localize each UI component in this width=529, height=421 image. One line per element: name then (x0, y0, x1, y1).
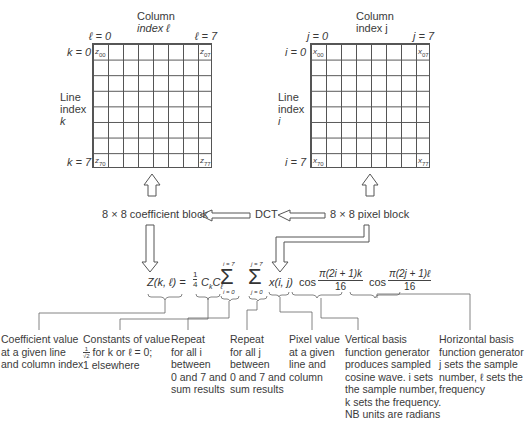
sigma-j: Σ (248, 266, 262, 288)
annotation-line: Horizontal basis (439, 333, 524, 346)
annotation-sum-j: Repeat for all j between 0 and 7 and sum… (230, 333, 285, 396)
annotation-line: sum results (171, 383, 226, 396)
pixel-block-label: 8 × 8 pixel block (330, 208, 409, 220)
leader-sum-j (247, 301, 257, 330)
sigma-i: Σ (220, 266, 234, 288)
formula-cos1: cos (299, 276, 316, 288)
sqrt2-fraction: 1 √2 (83, 346, 90, 359)
fraction-num: 1 (83, 346, 90, 353)
annotation-line: for all j (230, 346, 285, 359)
annotation-line: Vertical basis (345, 333, 441, 346)
annotation-line: Repeat (171, 333, 226, 346)
annotation-line: produces sampled (345, 358, 441, 371)
leader-cos1 (321, 298, 358, 330)
annotation-line: 1 √2 for k or ℓ = 0; (83, 346, 170, 360)
up-arrow-to-pixel-grid (362, 174, 378, 196)
leader-pixel (280, 297, 312, 330)
annotation-line: k sets the frequency. (345, 396, 441, 409)
annotation-constants: Constants of value 1 √2 for k or ℓ = 0; … (83, 333, 170, 372)
annotation-coefficient: Coefficient value at a given line and co… (1, 333, 83, 371)
annotation-line: NB units are radians (345, 408, 441, 421)
cos2-fraction: π(2j + 1)ℓ 16 (388, 268, 431, 293)
annotation-line: and column index (1, 358, 83, 371)
annotation-line: Constants of value (83, 333, 170, 346)
annotation-line: the sample number, (345, 383, 441, 396)
annotation-line: cosine wave. i sets (345, 371, 441, 384)
annotation-horizontal-basis: Horizontal basis function generator j se… (439, 333, 524, 396)
brace-sum-i (221, 296, 239, 301)
leader-constants (120, 300, 208, 330)
annotation-line: column (289, 371, 340, 384)
formula-cos2: cos (369, 276, 386, 288)
annotation-line: number, ℓ sets the (439, 371, 524, 384)
annotation-text: for k or ℓ = 0; (93, 346, 153, 358)
annotation-line: 1 elsewhere (83, 359, 170, 372)
down-arrow-to-formula (142, 225, 158, 272)
up-arrow-to-coefficient-grid (144, 174, 160, 196)
formula-quarter: 1 4 (193, 270, 197, 289)
annotation-line: at a given line (1, 346, 83, 359)
annotation-line: 0 and 7 and (171, 371, 226, 384)
brace-pixel (269, 292, 289, 297)
sum-i-bottom: i = 0 (223, 289, 235, 295)
brace-lhs (148, 294, 182, 300)
annotation-line: j sets the sample (439, 358, 524, 371)
annotation-line: function generator (345, 346, 441, 359)
leader-coefficient (39, 300, 165, 330)
cos2-denominator: 16 (388, 281, 431, 293)
cos1-denominator: 16 (318, 281, 363, 293)
annotation-line: at a given (289, 346, 340, 359)
formula-lhs: Z(k, ℓ) = (147, 276, 186, 288)
annotation-line: sum results (230, 383, 285, 396)
annotation-line: function generator (439, 346, 524, 359)
annotation-line: line and (289, 358, 340, 371)
annotation-pixel: Pixel value at a given line and column (289, 333, 340, 383)
annotation-line: for all i (171, 346, 226, 359)
annotation-line: Coefficient value (1, 333, 83, 346)
annotation-line: Repeat (230, 333, 285, 346)
quarter-denominator: 4 (193, 280, 197, 289)
cos2-numerator: π(2j + 1)ℓ (388, 268, 431, 281)
annotation-line: Pixel value (289, 333, 340, 346)
leader-sum-i (188, 301, 229, 330)
sum-j-bottom: j = 0 (251, 289, 263, 295)
quarter-numerator: 1 (193, 270, 197, 280)
cos1-numerator: π(2i + 1)k (318, 268, 363, 281)
brace-constants (196, 294, 220, 300)
cos1-fraction: π(2i + 1)k 16 (318, 268, 363, 293)
coefficient-block-label: 8 × 8 coefficient block (102, 208, 208, 220)
left-arrow-pixel-to-dct (278, 210, 325, 221)
annotation-line: frequency (439, 383, 524, 396)
brace-sum-j (249, 296, 267, 301)
bent-arrow-to-pixel-term (272, 225, 369, 272)
leader-cos2 (377, 294, 470, 330)
dct-label: DCT (255, 208, 278, 220)
formula-pixel-term: x(i, j) (269, 276, 293, 288)
annotation-line: between (230, 358, 285, 371)
annotation-sum-i: Repeat for all i between 0 and 7 and sum… (171, 333, 226, 396)
annotation-line: between (171, 358, 226, 371)
annotation-line: 0 and 7 and (230, 371, 285, 384)
annotation-vertical-basis: Vertical basis function generator produc… (345, 333, 441, 421)
